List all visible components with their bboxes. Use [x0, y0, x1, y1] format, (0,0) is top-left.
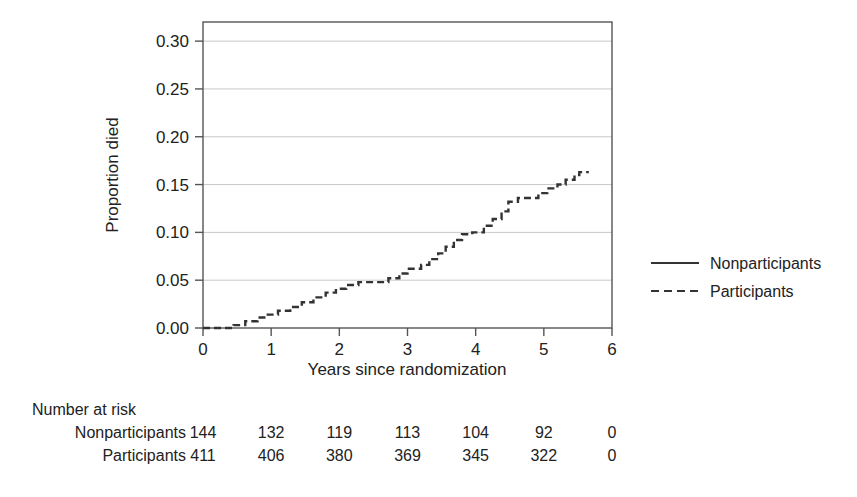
risk-value: 380: [326, 447, 353, 464]
gridlines: [203, 41, 612, 280]
y-axis: 0.000.050.100.150.200.250.30: [156, 32, 203, 338]
survival-curve-figure: 0.000.050.100.150.200.250.30 0123456 Yea…: [0, 0, 857, 497]
x-tick-label: 6: [607, 340, 616, 359]
x-tick-label: 4: [471, 340, 480, 359]
risk-value: 406: [258, 447, 285, 464]
x-tick-label: 0: [198, 340, 207, 359]
x-axis-title: Years since randomization: [308, 360, 507, 379]
legend-label-participants: Participants: [710, 283, 794, 300]
risk-value: 0: [608, 447, 617, 464]
number-at-risk-table: Number at risk Nonparticipants Participa…: [32, 401, 617, 464]
plot-frame: [203, 22, 612, 328]
x-tick-label: 1: [266, 340, 275, 359]
risk-value: 144: [190, 424, 217, 441]
risk-value: 113: [395, 424, 421, 441]
x-axis: 0123456: [198, 328, 616, 359]
y-tick-label: 0.30: [156, 32, 189, 51]
risk-table-header: Number at risk: [32, 401, 137, 418]
risk-row-label-participants: Participants: [102, 447, 186, 464]
risk-value: 132: [258, 424, 285, 441]
x-tick-label: 5: [539, 340, 548, 359]
risk-value: 104: [462, 424, 489, 441]
y-tick-label: 0.25: [156, 80, 189, 99]
risk-value: 92: [535, 424, 553, 441]
plot-border: [203, 22, 612, 328]
risk-values: 1441321191131049204114063803693453220: [190, 424, 617, 464]
risk-value: 0: [608, 424, 617, 441]
risk-value: 322: [530, 447, 557, 464]
y-tick-label: 0.05: [156, 271, 189, 290]
y-tick-label: 0.10: [156, 223, 189, 242]
y-tick-label: 0.20: [156, 128, 189, 147]
risk-value: 369: [394, 447, 421, 464]
x-tick-label: 3: [403, 340, 412, 359]
risk-value: 345: [462, 447, 489, 464]
risk-value: 119: [327, 424, 353, 441]
risk-row-label-nonparticipants: Nonparticipants: [75, 424, 186, 441]
data-series-layer: [203, 172, 589, 328]
y-axis-title: Proportion died: [103, 117, 122, 232]
y-tick-label: 0.00: [156, 319, 189, 338]
y-tick-label: 0.15: [156, 176, 189, 195]
chart-canvas: 0.000.050.100.150.200.250.30 0123456 Yea…: [0, 0, 857, 497]
series-line-participants: [203, 172, 589, 328]
legend: Nonparticipants Participants: [651, 255, 821, 300]
risk-value: 411: [190, 447, 216, 464]
legend-label-nonparticipants: Nonparticipants: [710, 255, 821, 272]
x-tick-label: 2: [335, 340, 344, 359]
